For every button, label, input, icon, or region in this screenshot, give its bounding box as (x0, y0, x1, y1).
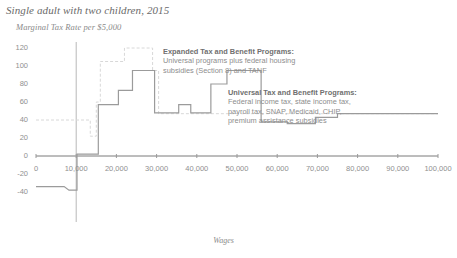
y-axis-tick-label: 80 (2, 79, 28, 88)
x-axis-tick-label: 100,000 (413, 164, 457, 173)
y-axis-tick-label: 100 (2, 61, 28, 70)
annotation-universal-programs: Universal Tax and Benefit Programs: Fede… (228, 88, 357, 126)
y-axis-tick-label: 0 (2, 151, 28, 160)
annotation-expanded-line2: subsidies (Section 8) and TANF (163, 66, 295, 75)
y-axis-tick-label: -40 (2, 187, 28, 196)
y-axis-tick-label: 40 (2, 115, 28, 124)
y-axis-tick-label: 20 (2, 133, 28, 142)
y-axis-tick-label: 60 (2, 97, 28, 106)
annotation-expanded-heading: Expanded Tax and Benefit Programs: (163, 47, 295, 56)
annotation-universal-line1: Federal income tax, state income tax, (228, 97, 357, 106)
x-axis-label: Wages (0, 236, 447, 245)
annotation-expanded-line1: Universal programs plus federal housing (163, 56, 295, 65)
annotation-universal-heading: Universal Tax and Benefit Programs: (228, 88, 357, 97)
annotation-expanded-programs: Expanded Tax and Benefit Programs: Unive… (163, 47, 295, 75)
annotation-universal-line3: premium assistance subsidies (228, 116, 357, 125)
annotation-universal-line2: payroll tax, SNAP, Medicaid, CHIP, (228, 107, 357, 116)
y-axis-tick-label: 120 (2, 43, 28, 52)
